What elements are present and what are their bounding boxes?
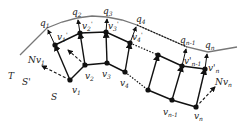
label-S: S (51, 92, 57, 102)
label-q3: q3 (103, 6, 113, 17)
node-v-mid-prime (155, 52, 160, 57)
node-v1-prime (52, 42, 57, 47)
mesh-offset-diagram: T S' S Nv1 Nvn q1 q2 q3 q4 qn-1 qn v1 v2… (0, 0, 250, 125)
label-q1: q1 (40, 18, 50, 29)
node-vn-1 (169, 97, 174, 102)
node-v1 (67, 77, 72, 82)
node-v2-prime (77, 30, 82, 35)
normal-vector-1 (42, 66, 70, 80)
label-q4: q4 (136, 14, 146, 25)
label-vn-1-prime: v'n-1 (184, 56, 201, 67)
label-q2: q2 (72, 7, 82, 18)
label-v1-prime: v1' (57, 31, 68, 43)
label-vn: vn (194, 111, 203, 122)
label-vn-prime: v'n (208, 63, 220, 74)
label-v1: v1 (72, 85, 81, 96)
label-S-prime: S' (22, 77, 31, 87)
node-v-mid (145, 87, 150, 92)
offset-vector-3 (106, 32, 107, 63)
node-vn (193, 104, 198, 109)
label-qn-1: qn-1 (180, 35, 195, 46)
label-vn-1: vn-1 (163, 107, 178, 118)
offset-vector-mid (148, 55, 158, 90)
node-v4 (122, 69, 127, 74)
label-Nvn: Nvn (214, 77, 232, 88)
label-T: T (8, 71, 15, 81)
label-v2: v2 (85, 71, 94, 82)
offset-chain-dotted (130, 43, 158, 55)
label-v3: v3 (102, 69, 111, 80)
label-Nv1: Nv1 (27, 55, 45, 66)
node-vn-prime (202, 66, 207, 71)
offset-vector-1 (55, 45, 70, 80)
label-qn: qn (205, 40, 215, 51)
label-v4: v4 (120, 78, 129, 89)
node-v2 (82, 62, 87, 67)
offset-vector-4 (125, 43, 130, 72)
node-v3 (104, 60, 109, 65)
label-v2-prime: v2' (82, 20, 93, 32)
offset-vector-2 (80, 33, 85, 65)
offset-vector-n (196, 69, 205, 107)
label-v3-prime: v3' (108, 20, 119, 32)
source-chain-solid-a (70, 63, 125, 80)
label-v4-prime: v4' (132, 31, 143, 43)
offset-vector-n-1 (172, 66, 182, 100)
